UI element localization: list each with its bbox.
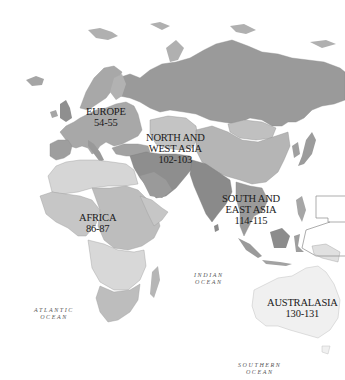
region-name: AFRICA (79, 212, 116, 223)
ocean-name-line-2: OCEAN (238, 369, 281, 376)
region-name-line-1: SOUTH AND (222, 193, 280, 204)
region-name: AUSTRALASIA (267, 297, 338, 308)
tasmania (322, 346, 330, 354)
madagascar (150, 266, 160, 298)
sulawesi (294, 234, 304, 252)
world-map (0, 0, 345, 380)
region-label-australasia[interactable]: AUSTRALASIA 130-131 (267, 297, 338, 319)
japan (298, 132, 316, 166)
ocean-name-line-2: OCEAN (194, 279, 224, 286)
borneo (270, 228, 290, 248)
region-name-line-1: NORTH AND (146, 132, 205, 143)
sri-lanka (214, 224, 219, 232)
ocean-name-line-1: ATLANTIC (34, 307, 74, 314)
ocean-name-line-1: SOUTHERN (238, 362, 281, 369)
ocean-label-southern: SOUTHERN OCEAN (238, 362, 281, 376)
region-pages: 130-131 (267, 308, 338, 319)
region-pages: 114-115 (222, 215, 280, 226)
philippines (296, 196, 306, 222)
ocean-name-line-1: INDIAN (194, 272, 224, 279)
great-britain (60, 100, 72, 122)
ireland (50, 110, 58, 118)
ocean-label-atlantic: ATLANTIC OCEAN (34, 307, 74, 321)
ocean-name-line-2: OCEAN (34, 314, 74, 321)
region-name-line-2: EAST ASIA (222, 204, 280, 215)
iberia (50, 140, 72, 160)
russia-region (110, 40, 345, 126)
region-label-europe[interactable]: EUROPE 54-55 (86, 106, 126, 128)
region-pages: 54-55 (86, 117, 126, 128)
region-name: EUROPE (86, 106, 126, 117)
ocean-label-indian: INDIAN OCEAN (194, 272, 224, 286)
region-label-south-east-asia[interactable]: SOUTH AND EAST ASIA 114-115 (222, 193, 280, 226)
iceland (26, 76, 44, 86)
korea (292, 142, 300, 158)
region-name-line-2: WEST ASIA (146, 143, 205, 154)
region-label-africa[interactable]: AFRICA 86-87 (79, 212, 116, 234)
sumatra (238, 238, 262, 258)
region-pages: 102-103 (146, 154, 205, 165)
new-guinea (312, 244, 340, 262)
java (262, 260, 292, 266)
region-label-north-west-asia[interactable]: NORTH AND WEST ASIA 102-103 (146, 132, 205, 165)
region-pages: 86-87 (79, 223, 116, 234)
